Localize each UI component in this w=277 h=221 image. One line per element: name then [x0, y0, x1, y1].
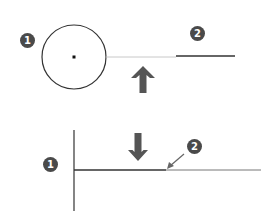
arrow-down-icon	[128, 133, 148, 161]
badge-1-top: 1	[20, 33, 35, 48]
center-dot	[73, 56, 76, 59]
bottom-panel	[74, 130, 261, 211]
top-panel	[42, 25, 235, 93]
diagram-svg	[0, 0, 277, 221]
badge-2-bottom: 2	[187, 139, 202, 154]
badge-2-top: 2	[190, 26, 205, 41]
diagram-canvas: 1 2 1 2	[0, 0, 277, 221]
arrow-up-icon	[131, 66, 155, 93]
badge-1-bottom: 1	[43, 157, 58, 172]
pointer-arrow-icon	[167, 154, 184, 169]
